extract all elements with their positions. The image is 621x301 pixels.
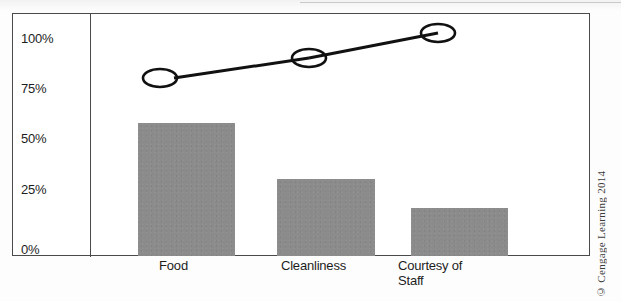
plot-area	[91, 14, 590, 257]
x-label-courtesy-line1: Courtesy of	[398, 258, 462, 273]
y-tick-label-0: 0%	[21, 243, 85, 257]
cumulative-line-segment-2	[309, 33, 438, 58]
cumulative-line-group	[91, 14, 590, 257]
x-label-courtesy: Courtesy of Staff	[398, 258, 518, 288]
cumulative-line-segment-1	[174, 58, 309, 78]
scan-rule-line	[300, 2, 621, 3]
copyright-credit: © Cengage Learning 2014	[595, 148, 613, 298]
y-tick-label-25: 25%	[21, 183, 85, 197]
pareto-chart-screenshot: 100% 75% 50% 25% 0% Food Cleanliness Cou…	[0, 0, 621, 301]
x-label-courtesy-line2: Staff	[398, 273, 424, 288]
chart-frame: 100% 75% 50% 25% 0%	[12, 13, 590, 256]
y-tick-label-75: 75%	[21, 82, 85, 96]
y-tick-label-100: 100%	[21, 32, 85, 46]
x-label-cleanliness: Cleanliness	[236, 258, 391, 273]
y-tick-label-50: 50%	[21, 132, 85, 146]
x-label-food: Food	[96, 258, 251, 273]
marker-food-75pct	[143, 69, 177, 87]
